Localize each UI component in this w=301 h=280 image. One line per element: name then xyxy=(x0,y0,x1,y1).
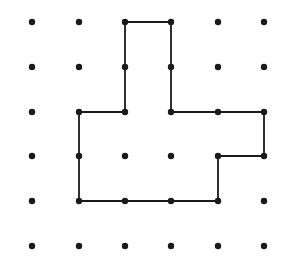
grid-dot-r5-c4 xyxy=(215,243,221,249)
grid-dot-r1-c0 xyxy=(29,64,35,70)
grid-dot-r5-c0 xyxy=(29,243,35,249)
grid-dot-r4-c3 xyxy=(168,198,174,204)
grid-dot-r3-c4 xyxy=(215,153,221,159)
grid-dot-r0-c0 xyxy=(29,19,35,25)
grid-dot-r5-c5 xyxy=(261,243,267,249)
grid-dot-r2-c3 xyxy=(168,109,174,115)
grid-dot-r3-c3 xyxy=(168,153,174,159)
dot-grid-svg xyxy=(0,0,301,280)
grid-dot-r2-c5 xyxy=(261,109,267,115)
grid-dot-r1-c4 xyxy=(215,64,221,70)
grid-dot-r3-c5 xyxy=(261,153,267,159)
grid-dot-r3-c0 xyxy=(29,153,35,159)
grid-dot-r4-c0 xyxy=(29,198,35,204)
grid-dot-r1-c5 xyxy=(261,64,267,70)
grid-dot-r4-c2 xyxy=(122,198,128,204)
grid-dot-r3-c1 xyxy=(76,153,82,159)
grid-dot-r1-c3 xyxy=(168,64,174,70)
grid-dot-r0-c4 xyxy=(215,19,221,25)
grid-dot-r0-c1 xyxy=(76,19,82,25)
grid-dot-r4-c5 xyxy=(261,198,267,204)
grid-dot-r3-c2 xyxy=(122,153,128,159)
grid-dot-r2-c1 xyxy=(76,109,82,115)
grid-dot-r4-c1 xyxy=(76,198,82,204)
grid-dot-r0-c3 xyxy=(168,19,174,25)
grid-dot-r4-c4 xyxy=(215,198,221,204)
grid-dot-r2-c0 xyxy=(29,109,35,115)
grid-dot-r5-c3 xyxy=(168,243,174,249)
grid-dot-r2-c2 xyxy=(122,109,128,115)
grid-dots xyxy=(29,19,267,249)
grid-dot-r2-c4 xyxy=(215,109,221,115)
grid-dot-r1-c2 xyxy=(122,64,128,70)
grid-dot-r1-c1 xyxy=(76,64,82,70)
grid-dot-r5-c2 xyxy=(122,243,128,249)
dot-grid-diagram xyxy=(0,0,301,280)
grid-dot-r0-c2 xyxy=(122,19,128,25)
grid-dot-r0-c5 xyxy=(261,19,267,25)
grid-dot-r5-c1 xyxy=(76,243,82,249)
